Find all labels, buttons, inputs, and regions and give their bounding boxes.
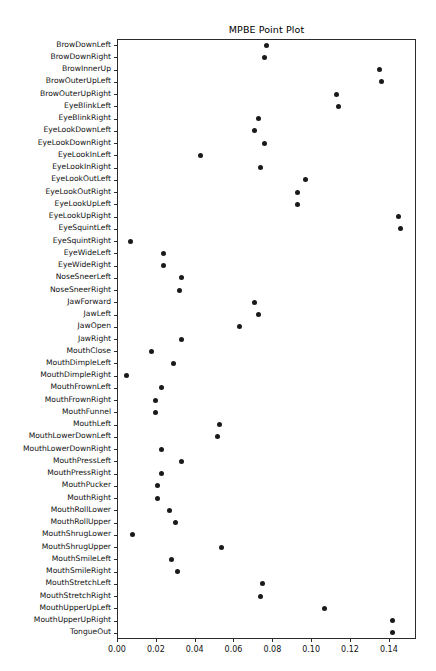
figure-canvas: MPBE Point Plot BrowDownLeftBrowDownRigh… — [0, 0, 436, 671]
data-point — [390, 618, 395, 623]
data-point — [153, 410, 158, 415]
data-point — [149, 349, 154, 354]
data-point — [175, 569, 180, 574]
data-point — [169, 557, 174, 562]
data-point — [379, 79, 384, 84]
data-point — [398, 226, 403, 231]
data-point — [217, 422, 222, 427]
data-point — [124, 373, 129, 378]
data-point — [396, 214, 401, 219]
data-point — [179, 275, 184, 280]
data-point — [159, 447, 164, 452]
data-point — [260, 581, 265, 586]
data-point — [258, 165, 263, 170]
data-point — [237, 324, 242, 329]
data-point — [303, 177, 308, 182]
data-point — [219, 545, 224, 550]
data-point — [173, 520, 178, 525]
data-point — [159, 471, 164, 476]
data-point — [161, 251, 166, 256]
data-point — [258, 594, 263, 599]
data-point — [390, 630, 395, 635]
data-point — [130, 532, 135, 537]
data-point — [155, 483, 160, 488]
data-point — [264, 43, 269, 48]
data-point — [262, 55, 267, 60]
data-point — [295, 190, 300, 195]
data-point — [179, 459, 184, 464]
data-point — [377, 67, 382, 72]
data-point — [252, 300, 257, 305]
data-point — [252, 128, 257, 133]
data-point — [256, 312, 261, 317]
data-point — [161, 263, 166, 268]
data-point — [198, 153, 203, 158]
data-point — [262, 141, 267, 146]
data-point — [177, 288, 182, 293]
data-point — [155, 496, 160, 501]
data-point — [334, 92, 339, 97]
data-point — [215, 434, 220, 439]
data-point — [322, 606, 327, 611]
data-point — [336, 104, 341, 109]
data-point — [295, 202, 300, 207]
data-point — [171, 361, 176, 366]
data-points-layer — [0, 0, 436, 671]
data-point — [128, 239, 133, 244]
data-point — [179, 337, 184, 342]
data-point — [153, 398, 158, 403]
data-point — [159, 385, 164, 390]
data-point — [167, 508, 172, 513]
data-point — [256, 116, 261, 121]
